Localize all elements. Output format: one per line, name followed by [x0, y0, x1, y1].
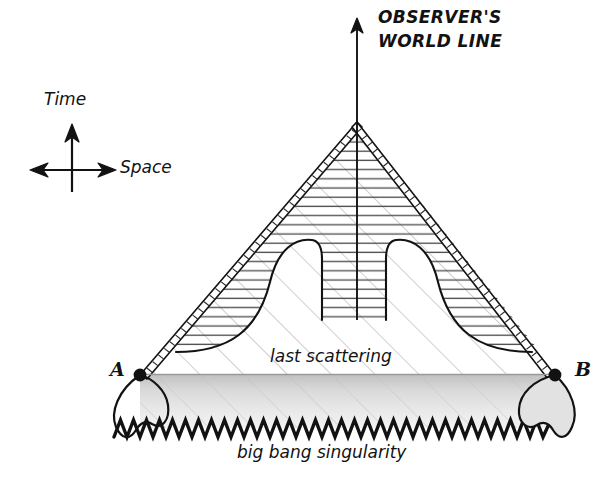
axis-label-space: Space [120, 158, 172, 178]
annotation-last-scattering: last scattering [270, 347, 392, 367]
event-b-dot [549, 369, 562, 382]
event-a-dot [134, 369, 147, 382]
axis-label-time: Time [44, 90, 86, 110]
diagram-canvas: OBSERVER'S WORLD LINE Time Space last sc… [0, 0, 611, 481]
page-title-line1: OBSERVER'S [378, 8, 502, 28]
axis-key-cross [30, 124, 116, 192]
annotation-big-bang-singularity: big bang singularity [237, 443, 406, 463]
event-a-label: A [110, 358, 125, 380]
spacetime-diagram-figure [0, 0, 611, 481]
event-b-label: B [575, 358, 591, 380]
page-title-line2: WORLD LINE [378, 32, 502, 52]
